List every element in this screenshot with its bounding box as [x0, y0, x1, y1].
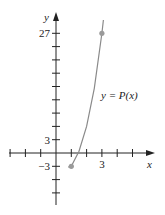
y-tick-label: 27: [39, 27, 51, 39]
x-axis-label: x: [146, 158, 152, 170]
y-tick-label: 3: [45, 134, 51, 146]
x-tick-label: 3: [99, 158, 105, 170]
y-axis: [52, 12, 60, 205]
y-axis-label: y: [43, 11, 49, 23]
y-tick-label: −3: [38, 160, 50, 172]
data-point: [69, 164, 74, 169]
polynomial-graph: y x y = P(x) 273−3 3: [0, 0, 165, 215]
curve-label: y = P(x): [100, 89, 138, 102]
x-axis: [9, 149, 155, 157]
curve-p-of-x: [68, 20, 103, 167]
x-axis-arrow-icon: [146, 150, 155, 156]
y-axis-arrow-icon: [53, 12, 59, 21]
data-point: [99, 31, 104, 36]
